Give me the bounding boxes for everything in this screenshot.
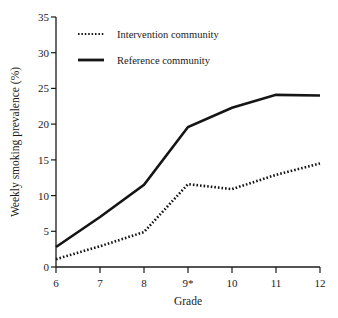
series-line-intervention-community	[56, 163, 320, 259]
y-tick-label: 20	[38, 118, 50, 130]
y-tick-label: 25	[38, 82, 50, 94]
legend-label-reference: Reference community	[117, 55, 211, 66]
y-tick-label: 5	[44, 225, 50, 237]
y-tick-label: 15	[38, 154, 50, 166]
legend-label-intervention: Intervention community	[117, 29, 220, 40]
y-tick-label: 30	[38, 47, 50, 59]
x-tick-label: 8	[141, 277, 147, 289]
x-axis-ticks	[56, 267, 320, 273]
x-tick-label: 9*	[183, 277, 194, 289]
series-line-reference-community	[56, 95, 320, 247]
x-tick-label: 10	[227, 277, 239, 289]
x-tick-label: 11	[271, 277, 282, 289]
chart-container: Weekly smoking prevalence (%) 0 5 10 15 …	[0, 0, 338, 318]
y-tick-label: 0	[44, 261, 50, 273]
x-tick-label: 7	[97, 277, 103, 289]
x-axis-title: Grade	[174, 295, 202, 307]
y-tick-label: 10	[38, 190, 50, 202]
y-axis-title: Weekly smoking prevalence (%)	[9, 67, 22, 217]
chart-legend: Intervention community Reference communi…	[78, 29, 220, 66]
line-chart: Weekly smoking prevalence (%) 0 5 10 15 …	[0, 0, 338, 318]
x-axis-tick-labels: 6 7 8 9* 10 11 12	[53, 277, 325, 289]
y-tick-label: 35	[38, 11, 50, 23]
x-tick-label: 12	[315, 277, 326, 289]
y-axis-ticks: 0 5 10 15 20 25 30 35	[38, 11, 56, 273]
x-tick-label: 6	[53, 277, 59, 289]
